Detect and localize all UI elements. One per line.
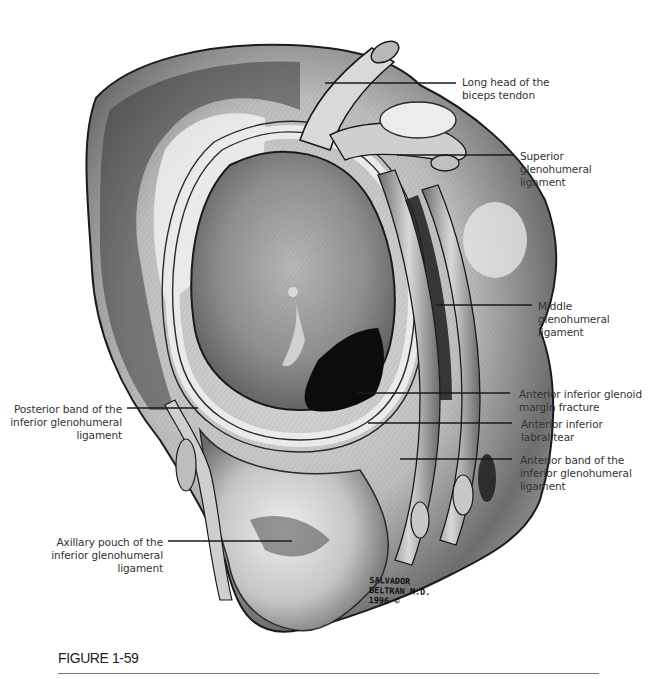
label-superior-gh-ligament: Superior glenohumeral ligament: [520, 150, 592, 189]
label-long-head-biceps: Long head of the biceps tendon: [462, 76, 549, 102]
label-ant-inf-labral-tear: Anterior inferior labral tear: [521, 418, 603, 444]
figure-caption: FIGURE 1-59: [58, 650, 138, 666]
caption-divider: [58, 673, 599, 674]
label-axillary-pouch: Axillary pouch of the inferior glenohume…: [0, 536, 163, 575]
label-anterior-band-ighl: Anterior band of the inferior glenohumer…: [520, 454, 632, 493]
artist-signature: SALVADOR BELTRAN M.D. 1996 ©: [368, 575, 430, 607]
anatomical-illustration: [0, 0, 657, 679]
label-ant-inf-glenoid-fracture: Anterior inferior glenoid margin fractur…: [519, 388, 642, 414]
label-middle-gh-ligament: Middle glenohumeral ligament: [538, 300, 610, 339]
superior-gh-ligament-stump: [431, 155, 459, 171]
label-posterior-band-ighl: Posterior band of the inferior glenohume…: [0, 403, 122, 442]
